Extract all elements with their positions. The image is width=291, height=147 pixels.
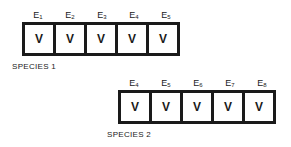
species-2-group: E4 E5 E6 E7 E8 V V V V V SPECIES 2: [118, 78, 288, 147]
species-1-group: E1 E2 E3 E4 E5 V V V V V SPECIES 1: [22, 10, 192, 80]
epitope-label: E6: [182, 78, 214, 90]
box-cell: V: [152, 93, 180, 121]
box-cell: V: [149, 25, 177, 53]
epitope-label: E5: [150, 78, 182, 90]
box-cell: V: [87, 25, 115, 53]
species-1-box-row: V V V V V: [22, 22, 180, 56]
epitope-label: E1: [22, 10, 54, 22]
epitope-label: E5: [150, 10, 182, 22]
species-2-box-row: V V V V V: [118, 90, 276, 124]
box-cell: V: [56, 25, 84, 53]
species-2-label: SPECIES 2: [107, 130, 151, 139]
species-2-epitope-labels: E4 E5 E6 E7 E8: [118, 78, 278, 90]
box-cell: V: [245, 93, 273, 121]
epitope-label: E8: [246, 78, 278, 90]
box-cell: V: [25, 25, 53, 53]
box-cell: V: [118, 25, 146, 53]
box-cell: V: [183, 93, 211, 121]
epitope-label: E2: [54, 10, 86, 22]
epitope-label: E7: [214, 78, 246, 90]
box-cell: V: [121, 93, 149, 121]
epitope-label: E3: [86, 10, 118, 22]
epitope-label: E4: [118, 10, 150, 22]
epitope-label: E4: [118, 78, 150, 90]
box-cell: V: [214, 93, 242, 121]
species-1-epitope-labels: E1 E2 E3 E4 E5: [22, 10, 182, 22]
species-1-label: SPECIES 1: [12, 62, 56, 71]
